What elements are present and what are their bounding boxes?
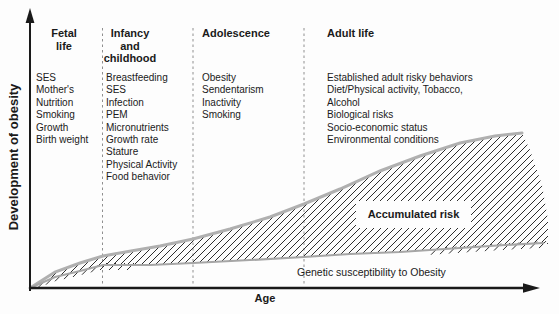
factor-item: Infection — [106, 97, 177, 109]
factor-item: Breastfeeding — [106, 72, 177, 84]
factor-item: Smoking — [202, 109, 264, 121]
stage-title-adolescence: Adolescence — [202, 27, 270, 40]
factor-item: Socio-economic status — [327, 122, 473, 134]
factor-item: Inactivity — [202, 97, 264, 109]
stage-title-infancy: Infancyandchildhood — [103, 27, 157, 65]
stage-title-adult: Adult life — [327, 27, 374, 40]
factor-item: Micronutrients — [106, 122, 177, 134]
factor-item: Diet/Physical activity, Tobacco, — [327, 84, 473, 96]
factor-item: Sendentarism — [202, 84, 264, 96]
factor-item: Growth rate — [106, 134, 177, 146]
factor-item: Physical Activity — [106, 159, 177, 171]
factor-item: Stature — [106, 146, 177, 158]
accumulated-risk-label: Accumulated risk — [356, 201, 471, 228]
factor-item: Biological risks — [327, 109, 473, 121]
stage-fetal: FetallifeSESMother'sNutritionSmokingGrow… — [34, 27, 94, 52]
factor-item: Birth weight — [36, 134, 88, 146]
stage-adolescence: AdolescenceObesitySendentarismInactivity… — [202, 27, 270, 40]
factor-item: Obesity — [202, 72, 264, 84]
stage-infancy: InfancyandchildhoodBreastfeedingSESInfec… — [103, 27, 157, 65]
factor-item: SES — [36, 72, 88, 84]
y-axis-label: Development of obesity — [6, 84, 21, 231]
factor-item: Environmental conditions — [327, 134, 473, 146]
factor-item: Mother's — [36, 84, 88, 96]
stage-factors-adult: Established adult risky behaviorsDiet/Ph… — [327, 72, 473, 146]
y-axis-arrow-icon — [26, 8, 35, 23]
factor-item: Established adult risky behaviors — [327, 72, 473, 84]
factor-item: Alcohol — [327, 97, 473, 109]
x-axis-label: Age — [225, 292, 305, 304]
factor-item: Food behavior — [106, 171, 177, 183]
factor-item: Nutrition — [36, 97, 88, 109]
factor-item: PEM — [106, 109, 177, 121]
stage-factors-adolescence: ObesitySendentarismInactivitySmoking — [202, 72, 264, 122]
obesity-development-diagram: Development of obesity FetallifeSESMothe… — [0, 0, 559, 314]
factor-item: Growth — [36, 122, 88, 134]
x-axis-arrow-icon — [523, 283, 540, 293]
stage-factors-fetal: SESMother'sNutritionSmokingGrowthBirth w… — [36, 72, 88, 146]
factor-item: SES — [106, 84, 177, 96]
genetic-susceptibility-label: Genetic susceptibility to Obesity — [297, 266, 446, 278]
factor-item: Smoking — [36, 109, 88, 121]
stage-adult: Adult lifeEstablished adult risky behavi… — [327, 27, 374, 40]
stage-title-fetal: Fetallife — [34, 27, 94, 52]
stage-factors-infancy: BreastfeedingSESInfectionPEMMicronutrien… — [106, 72, 177, 184]
